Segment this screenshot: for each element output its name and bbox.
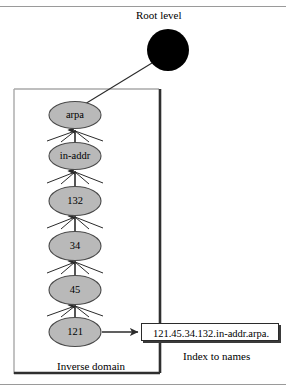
inverse-domain-label: Inverse domain	[57, 360, 125, 372]
node-label-121: 121	[47, 327, 103, 338]
node-label-45: 45	[47, 285, 103, 296]
edge-in-addr-to-arpa	[47, 130, 103, 143]
node-root-level	[147, 29, 189, 71]
edge-arpa-to-root	[80, 63, 152, 107]
edge-34-to-132	[47, 216, 103, 232]
node-label-132: 132	[47, 196, 103, 207]
node-label-arpa: arpa	[47, 110, 103, 121]
node-label-in-addr: in-addr	[47, 151, 103, 162]
edge-45-to-34	[47, 261, 103, 276]
reverse-name-text: 121.45.34.132.in-addr.arpa.	[142, 324, 280, 342]
figure-root: arpa in-addr 132 34 45 121 Root level In…	[0, 0, 286, 392]
edge-121-to-45	[47, 305, 103, 318]
root-level-label: Root level	[136, 9, 182, 21]
index-to-names-label: Index to names	[183, 350, 250, 362]
edge-132-to-in-addr	[47, 171, 103, 187]
node-label-34: 34	[47, 241, 103, 252]
reverse-name-box: 121.45.34.132.in-addr.arpa.	[141, 323, 279, 341]
